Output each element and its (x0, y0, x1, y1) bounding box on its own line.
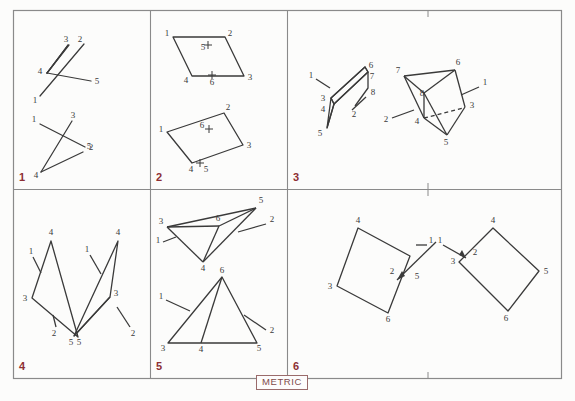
p5b-triangle (168, 277, 257, 343)
p6a-label-1: 1 (438, 235, 443, 245)
figure-p6-diamond-left (337, 228, 410, 313)
p3a-label-1: 1 (309, 70, 314, 80)
p1a-label-1: 1 (33, 95, 38, 105)
p2a-label-5: 5 (201, 42, 206, 52)
p4b-leader-2 (117, 307, 130, 327)
figure-p4-triangle-right (74, 241, 118, 336)
figure-p5-folded-triangle (163, 208, 266, 262)
p4a-label-5: 5 (77, 337, 82, 347)
p5b-label-5: 5 (257, 343, 262, 353)
p3a-label-2: 2 (352, 109, 357, 119)
p3b-label-3: 3 (470, 100, 475, 110)
p5a-label-2: 2 (270, 214, 275, 224)
figure-p3-wedge-solid (392, 70, 479, 135)
figure-p6-diamond-right (459, 228, 539, 311)
p4a-label-3: 3 (23, 293, 28, 303)
panel-1-labels: 3 2 4 5 1 1 3 2 5 5 5 4 (32, 34, 100, 180)
panel-2-figures (167, 37, 244, 163)
p6b-label-3: 3 (451, 256, 456, 266)
p3b-label-5: 5 (444, 137, 449, 147)
p1a-label-2: 2 (78, 34, 83, 44)
p2a-label-3: 3 (248, 72, 253, 82)
p5a-label-1: 1 (156, 235, 161, 245)
p3b-label-7: 7 (396, 65, 401, 75)
panel-2-labels: 1 2 3 4 5 6 1 2 3 4 5 6 (159, 28, 253, 174)
p3a-label-6: 6 (369, 60, 374, 70)
p4a-label-4: 4 (49, 227, 54, 237)
p5a-3-4 (167, 227, 203, 262)
wedge-4-5 (424, 118, 447, 135)
panel-number-5: 5 (156, 361, 162, 372)
p5a-4-6 (203, 226, 219, 262)
p3b-label-6: 6 (456, 57, 461, 67)
plane-face-inner (331, 67, 368, 104)
p1a-label-4: 4 (38, 66, 43, 76)
p2a-label-6: 6 (210, 77, 215, 87)
p4a-label-2: 2 (52, 328, 57, 338)
panel-number-3: 3 (293, 172, 299, 183)
p1a-label-3: 3 (64, 34, 69, 44)
wedge-leader-1 (461, 87, 479, 95)
p5a-leader-2 (238, 224, 266, 232)
p5b-leader-2 (244, 315, 266, 330)
p6b-arrowhead (459, 250, 466, 258)
panel-number-6: 6 (293, 361, 299, 372)
wedge-5-3 (447, 107, 465, 135)
wedge-hidden-4-3 (424, 108, 463, 118)
panel-1-figures (40, 44, 91, 172)
p2b-label-2: 2 (226, 102, 231, 112)
p5b-leader-1 (166, 300, 190, 311)
p2b-label-4: 4 (189, 164, 194, 174)
p1b-label-4: 4 (34, 170, 39, 180)
p6a-label-5: 5 (415, 271, 420, 281)
poly-1-2 (40, 44, 84, 96)
p4b-label-4: 4 (116, 227, 121, 237)
figure-p1-lower (40, 121, 85, 172)
p6a-label-3: 3 (328, 281, 333, 291)
p5a-3-6 (167, 226, 219, 227)
sheet-graphics: 3 2 4 5 1 1 3 2 5 5 5 4 (0, 0, 575, 401)
p6b-label-2: 2 (473, 247, 478, 257)
panel-4-labels: 4 1 3 2 5 4 1 3 5 2 (23, 227, 136, 347)
panel-5-labels: 5 2 3 6 1 4 6 1 2 3 4 5 (156, 195, 275, 354)
p2a-label-4: 4 (184, 75, 189, 85)
p3a-label-3: 3 (321, 93, 326, 103)
wedge-6-3 (455, 70, 465, 107)
p5b-label-1: 1 (159, 291, 164, 301)
p2a-label-1: 1 (165, 28, 170, 38)
p2b-label-6: 6 (200, 120, 205, 130)
plane-leader-1 (316, 79, 330, 88)
p6a-label-6: 6 (386, 314, 391, 324)
p5a-label-4: 4 (201, 263, 206, 273)
p5a-3-5 (167, 208, 256, 227)
figure-p1-upper (40, 44, 91, 96)
p4a-leader-1 (33, 257, 41, 273)
p3b-label-2: 2 (384, 114, 389, 124)
p4b-tri-5-3 (74, 297, 110, 336)
p5b-median-6-4 (201, 277, 222, 343)
p5a-label-6: 6 (216, 213, 221, 223)
p4a-label-1: 1 (29, 246, 34, 256)
p3a-label-7: 7 (370, 71, 375, 81)
p2b-label-3: 3 (247, 140, 252, 150)
p5b-label-3: 3 (161, 343, 166, 353)
p5b-label-2: 2 (270, 325, 275, 335)
p5a-leader-1 (163, 237, 176, 242)
panel-number-1: 1 (19, 172, 25, 183)
p3a-label-4: 4 (321, 104, 326, 114)
p6a-label-2: 2 (390, 266, 395, 276)
p4b-label-2: 2 (131, 328, 136, 338)
p1b-label-1: 1 (32, 114, 37, 124)
p6b-label-4: 4 (491, 215, 496, 225)
p3b-label-1: 1 (483, 77, 488, 87)
p2a-label-2: 2 (228, 28, 233, 38)
panel-3-figures (316, 67, 479, 135)
wedge-leader-2 (392, 110, 414, 118)
p3a-label-8: 8 (371, 87, 376, 97)
p4b-leader-1 (90, 255, 101, 274)
p2b-label-1: 1 (159, 124, 164, 134)
panel-6-labels: 4 3 6 5 2 1 4 3 2 5 6 1 (328, 215, 549, 324)
wedge-8-5 (424, 93, 447, 135)
panel-5-figures (163, 208, 266, 343)
p6b-label-6: 6 (504, 313, 509, 323)
